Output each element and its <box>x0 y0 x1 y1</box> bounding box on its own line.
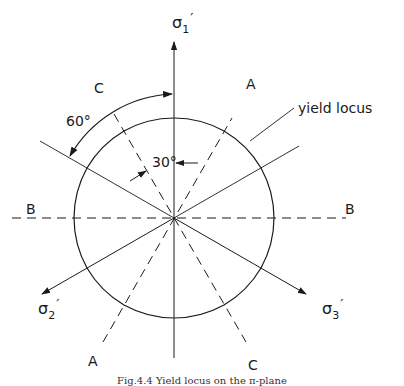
angle-30-arrow-left <box>130 171 146 181</box>
label-b-left: B <box>26 201 36 217</box>
label-a-top: A <box>246 76 256 92</box>
sigma2-label: σ2′ <box>38 296 59 322</box>
figure-caption: Fig.4.4 Yield locus on the π-plane <box>0 375 404 386</box>
label-c-top: C <box>94 80 104 96</box>
label-c-bottom: C <box>248 357 258 373</box>
label-b-right: B <box>345 201 355 217</box>
angle-30-label: 30° <box>152 154 177 170</box>
sigma3-label: σ3′ <box>322 296 343 322</box>
dashed-line-a <box>103 118 232 342</box>
sigma1-label: σ1′ <box>172 10 193 36</box>
yield-locus-label: yield locus <box>298 100 372 116</box>
solid-line-30deg <box>174 146 299 218</box>
label-a-bottom: A <box>88 353 98 369</box>
dashed-line-c <box>114 114 246 342</box>
sigma2-axis-arrow <box>42 218 174 294</box>
sigma3-axis-arrow <box>174 218 306 294</box>
solid-line-150deg <box>40 141 174 218</box>
angle-60-label: 60° <box>66 113 91 129</box>
yield-locus-leader <box>250 108 294 141</box>
